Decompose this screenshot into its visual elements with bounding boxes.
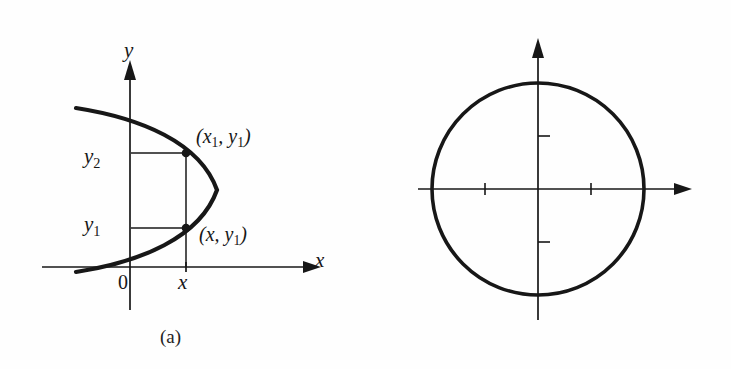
point-marker-upper <box>182 149 191 158</box>
origin-label: 0 <box>118 272 128 292</box>
paren-close: ) <box>240 223 247 245</box>
y1-base: y <box>84 212 93 236</box>
x-axis-group <box>418 183 692 195</box>
y2-tick-label: y2 <box>84 146 100 170</box>
y2-subscript: 2 <box>93 155 100 171</box>
point-upper-x-base: x <box>203 125 212 147</box>
paren-open: ( <box>196 125 203 147</box>
point-upper-y-base: y <box>228 125 237 147</box>
paren-close: ) <box>244 125 251 147</box>
x-axis-arrowhead <box>674 183 692 195</box>
point-marker-lower <box>182 224 191 233</box>
panel-a-graphic <box>0 0 366 369</box>
y-axis-group <box>532 38 544 320</box>
comma: , <box>218 125 228 147</box>
panel-a: y x y2 y1 0 x (x1, y1) (x, y1) (a) <box>0 0 366 369</box>
y-axis-arrowhead <box>124 60 136 80</box>
point-label-upper: (x1, y1) <box>196 126 251 150</box>
y1-subscript: 1 <box>93 223 100 239</box>
panel-b: y x y=±√4−x2 −2 −1 0 1 2 2 1 −1 −2 (b) <box>366 0 731 369</box>
y2-base: y <box>84 144 93 168</box>
panel-b-graphic <box>366 0 731 369</box>
point-lower-x-base: x <box>206 223 215 245</box>
comma: , <box>215 223 225 245</box>
y1-tick-label: y1 <box>84 214 100 238</box>
point-label-lower: (x, y1) <box>199 224 247 248</box>
paren-open: ( <box>199 223 206 245</box>
figure-page: y x y2 y1 0 x (x1, y1) (x, y1) (a) <box>0 0 731 369</box>
panel-a-caption: (a) <box>160 326 181 348</box>
x-axis-label: x <box>315 250 324 271</box>
y-axis-label: y <box>124 40 133 61</box>
x-tick-label: x <box>178 272 187 293</box>
y-axis-arrowhead <box>532 38 544 58</box>
